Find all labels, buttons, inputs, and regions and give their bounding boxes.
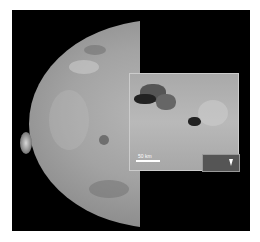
sub-inset — [202, 154, 240, 172]
io-moon — [29, 20, 140, 228]
scale-label: 50 km — [138, 153, 152, 159]
image-frame: 50 km — [12, 10, 250, 231]
moon-disk-clip — [12, 10, 140, 231]
arrow-icon — [229, 159, 233, 166]
scale-bar — [136, 160, 160, 162]
closeup-inset: 50 km — [129, 73, 239, 171]
volcanic-plume — [20, 132, 32, 154]
